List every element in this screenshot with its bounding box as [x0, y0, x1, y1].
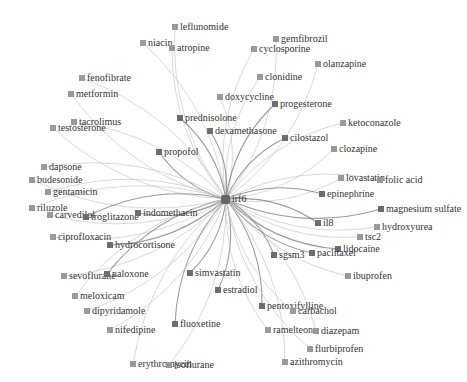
graph-node[interactable]: prednisolone [177, 113, 237, 123]
node-square-icon [331, 146, 337, 152]
node-label: simvastatin [195, 268, 241, 278]
graph-node[interactable]: flurbiprofen [307, 344, 363, 354]
node-label: ketoconazole [348, 118, 401, 128]
node-square-icon [61, 273, 67, 279]
node-square-icon [319, 191, 325, 197]
node-label: ramelteon [273, 325, 313, 335]
node-square-icon [107, 242, 113, 248]
edge [172, 48, 226, 199]
graph-node[interactable]: leflunomide [172, 22, 228, 32]
edge [226, 199, 381, 218]
node-square-icon [169, 45, 175, 51]
graph-node[interactable]: meloxicam [72, 291, 124, 301]
graph-node[interactable]: magnesium sulfate [378, 204, 461, 214]
graph-node[interactable]: cyclosporine [251, 44, 310, 54]
graph-node[interactable]: metformin [68, 89, 118, 99]
graph-node[interactable]: ramelteon [265, 325, 313, 335]
node-label: olanzapine [323, 59, 366, 69]
edge [159, 152, 226, 199]
graph-node[interactable]: progesterone [272, 99, 332, 109]
node-label: dexamethasone [215, 126, 277, 136]
node-label: magnesium sulfate [386, 204, 461, 214]
node-square-icon [177, 115, 183, 121]
node-label: meloxicam [80, 291, 124, 301]
graph-node[interactable]: dipyridamole [84, 306, 145, 316]
graph-node[interactable]: cilostazol [282, 133, 328, 143]
node-square-icon [29, 205, 35, 211]
node-square-icon [340, 120, 346, 126]
node-square-icon [377, 177, 383, 183]
node-square-icon [140, 40, 146, 46]
node-square-icon [166, 362, 172, 368]
graph-node[interactable]: carbachol [290, 306, 337, 316]
node-label: folic acid [385, 175, 422, 185]
graph-node[interactable]: ibuprofen [345, 271, 392, 281]
network-graph: leflunomideniacinatropinegemfibrozilcycl… [0, 0, 467, 382]
graph-node[interactable]: sgsm3 [271, 250, 305, 260]
node-square-icon [290, 308, 296, 314]
node-label: naloxone [112, 269, 149, 279]
node-label: diazepam [321, 326, 359, 336]
node-label: fluoxetine [180, 319, 221, 329]
graph-node[interactable]: paclitaxel [309, 248, 356, 258]
node-label: prednisolone [185, 113, 237, 123]
node-square-icon [45, 189, 51, 195]
node-label: azithromycin [290, 357, 343, 367]
graph-node[interactable]: troglitazone [83, 212, 139, 222]
node-square-icon [172, 24, 178, 30]
node-square-icon [135, 210, 141, 216]
node-square-icon [41, 164, 47, 170]
graph-node[interactable]: diazepam [313, 326, 359, 336]
node-square-icon [107, 327, 113, 333]
graph-node[interactable]: dapsone [41, 162, 82, 172]
graph-node[interactable]: budesonide [29, 175, 83, 185]
node-label: tsc2 [365, 232, 381, 242]
graph-node[interactable]: dexamethasone [207, 126, 277, 136]
node-label: flurbiprofen [315, 344, 363, 354]
graph-node[interactable]: naloxone [104, 269, 149, 279]
node-label: clonidine [265, 72, 302, 82]
node-label: atropine [177, 43, 210, 53]
graph-node[interactable]: testosterone [50, 123, 106, 133]
graph-node[interactable]: nifedipine [107, 325, 156, 335]
node-square-icon [315, 61, 321, 67]
graph-node[interactable]: ciprofloxacin [50, 232, 111, 242]
graph-node[interactable]: propofol [156, 147, 198, 157]
hub-node-irf6[interactable]: irf6 [221, 194, 246, 204]
graph-node[interactable]: epinephrine [319, 189, 374, 199]
graph-node[interactable]: clonidine [257, 72, 302, 82]
graph-node[interactable]: folic acid [377, 175, 422, 185]
graph-node[interactable]: ketoconazole [340, 118, 401, 128]
graph-node[interactable]: isoflurane [166, 360, 214, 370]
graph-node[interactable]: estradiol [215, 285, 257, 295]
graph-node[interactable]: indomethacin [135, 208, 197, 218]
graph-node[interactable]: hydroxyurea [374, 222, 433, 232]
graph-node[interactable]: clozapine [331, 144, 377, 154]
node-label: clozapine [339, 144, 377, 154]
node-label: troglitazone [91, 212, 139, 222]
graph-node[interactable]: niacin [140, 38, 172, 48]
graph-node[interactable]: gentamicin [45, 187, 97, 197]
node-square-icon [259, 303, 265, 309]
node-label: ibuprofen [353, 271, 392, 281]
node-square-icon [130, 361, 136, 367]
node-label: isoflurane [174, 360, 214, 370]
graph-node[interactable]: azithromycin [282, 357, 343, 367]
graph-node[interactable]: fenofibrate [79, 73, 131, 83]
graph-node[interactable]: atropine [169, 43, 210, 53]
node-square-icon [83, 214, 89, 220]
node-square-icon [217, 94, 223, 100]
graph-node[interactable]: il8 [315, 218, 334, 228]
graph-node[interactable]: fluoxetine [172, 319, 221, 329]
node-label: nifedipine [115, 325, 156, 335]
graph-node[interactable]: olanzapine [315, 59, 366, 69]
node-square-icon [273, 36, 279, 42]
graph-node[interactable]: hydrocortisone [107, 240, 175, 250]
node-square-icon [315, 220, 321, 226]
node-label: il8 [323, 218, 334, 228]
graph-node[interactable]: doxycycline [217, 92, 274, 102]
graph-node[interactable]: tsc2 [357, 232, 381, 242]
graph-node[interactable]: simvastatin [187, 268, 241, 278]
node-label: budesonide [37, 175, 83, 185]
node-square-icon [156, 149, 162, 155]
